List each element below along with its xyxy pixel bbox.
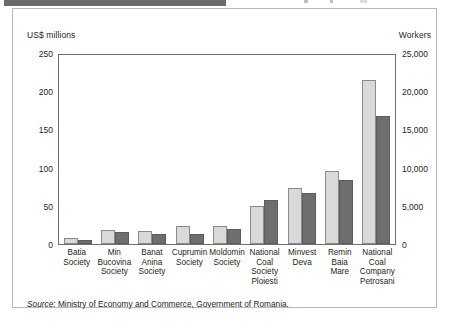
x-axis-labels: BatiaSocietyMinBucovinaSocietyBanatAnina… (58, 248, 396, 286)
left-axis-tick-label: 100 (20, 164, 53, 174)
x-axis-label-line: Minvest (284, 248, 320, 258)
bar-workers[interactable] (78, 240, 92, 244)
plot-area (58, 54, 396, 245)
title-bar-tab[interactable] (4, 0, 226, 6)
bar-usd-millions[interactable] (362, 80, 376, 244)
bar-group (208, 55, 245, 244)
x-axis-label-line: Society (59, 258, 95, 268)
bar-group (320, 55, 357, 244)
bar-series-container (59, 55, 395, 244)
bar-usd-millions[interactable] (213, 226, 227, 244)
x-axis-label-line: Society (134, 267, 170, 277)
x-axis-label: NationalCoalCompanyPetrosani (359, 248, 397, 286)
bar-workers[interactable] (152, 234, 166, 244)
x-axis-label-line: Min (97, 248, 133, 258)
bar-group (283, 55, 320, 244)
x-axis-label-line: Mare (322, 267, 358, 277)
x-axis-label-line: Coal (247, 258, 283, 268)
x-axis-label-line: Bucovina (97, 258, 133, 268)
left-axis-tick-label: 200 (20, 87, 53, 97)
x-axis-label-line: Ploiesti (247, 277, 283, 287)
x-axis-label-line: National (247, 248, 283, 258)
x-axis-label-line: Cuprumin (172, 248, 208, 258)
header-text-remnant (360, 0, 367, 3)
header-text-remnant (304, 0, 308, 3)
x-axis-label: NationalCoalSocietyPloiesti (246, 248, 284, 286)
bar-workers[interactable] (227, 229, 241, 244)
x-axis-label: MinvestDeva (283, 248, 321, 286)
x-axis-label-line: Moldomin (209, 248, 245, 258)
bar-group (171, 55, 208, 244)
bar-group (134, 55, 171, 244)
right-axis-title: Workers (399, 30, 431, 40)
x-axis-label: MinBucovinaSociety (96, 248, 134, 286)
right-axis-tick-label: 20,000 (402, 87, 428, 97)
right-axis-tick-label: 0 (402, 240, 407, 250)
x-axis-label-line: Company (360, 267, 396, 277)
left-axis-tick-label: 50 (20, 202, 53, 212)
left-axis-tick-label: 250 (20, 49, 53, 59)
bar-usd-millions[interactable] (250, 206, 264, 244)
x-axis-label-line: Coal (360, 258, 396, 268)
x-axis-label: ReminBaiaMare (321, 248, 359, 286)
left-axis-title: US$ millions (27, 30, 75, 40)
bar-usd-millions[interactable] (64, 238, 78, 244)
right-axis-tick-label: 5,000 (402, 202, 423, 212)
x-axis-label-line: Petrosani (360, 277, 396, 287)
x-axis-label-line: Society (97, 267, 133, 277)
bar-usd-millions[interactable] (288, 188, 302, 244)
x-axis-label-line: Banat (134, 248, 170, 258)
bar-usd-millions[interactable] (101, 230, 115, 244)
x-axis-label-line: National (360, 248, 396, 258)
x-axis-label-line: Society (172, 258, 208, 268)
bar-workers[interactable] (302, 193, 316, 244)
x-axis-label: BatiaSociety (58, 248, 96, 286)
right-axis-tick-label: 25,000 (402, 49, 428, 59)
x-axis-label-line: Batia (59, 248, 95, 258)
source-caption: Source: Ministry of Economy and Commerce… (27, 299, 289, 309)
bar-group (246, 55, 283, 244)
left-axis-tick-label: 150 (20, 125, 53, 135)
source-text: Ministry of Economy and Commerce, Govern… (56, 299, 289, 309)
bar-usd-millions[interactable] (138, 231, 152, 244)
source-prefix: Source: (27, 299, 56, 309)
x-axis-label-line: Society (209, 258, 245, 268)
bar-workers[interactable] (376, 116, 390, 244)
bar-group (59, 55, 96, 244)
x-axis-label: BanatAninaSociety (133, 248, 171, 286)
header-text-remnant (330, 0, 333, 3)
x-axis-label-line: Deva (284, 258, 320, 268)
bar-group (96, 55, 133, 244)
x-axis-label: MoldominSociety (208, 248, 246, 286)
bar-group (358, 55, 395, 244)
right-axis-tick-label: 15,000 (402, 125, 428, 135)
bar-workers[interactable] (339, 180, 353, 244)
x-axis-label-line: Anina (134, 258, 170, 268)
x-axis-label: CupruminSociety (171, 248, 209, 286)
bar-usd-millions[interactable] (325, 171, 339, 244)
left-axis-tick-label: 0 (20, 240, 53, 250)
x-axis-label-line: Society (247, 267, 283, 277)
window-top-strip (0, 0, 451, 7)
x-axis-label-line: Baia (322, 258, 358, 268)
bar-usd-millions[interactable] (176, 226, 190, 244)
bar-workers[interactable] (264, 200, 278, 244)
chart-figure: US$ millions Workers 050100150200250 05,… (0, 0, 451, 328)
right-axis-tick-label: 10,000 (402, 164, 428, 174)
bar-workers[interactable] (115, 232, 129, 244)
bar-workers[interactable] (190, 234, 204, 244)
x-axis-label-line: Remin (322, 248, 358, 258)
